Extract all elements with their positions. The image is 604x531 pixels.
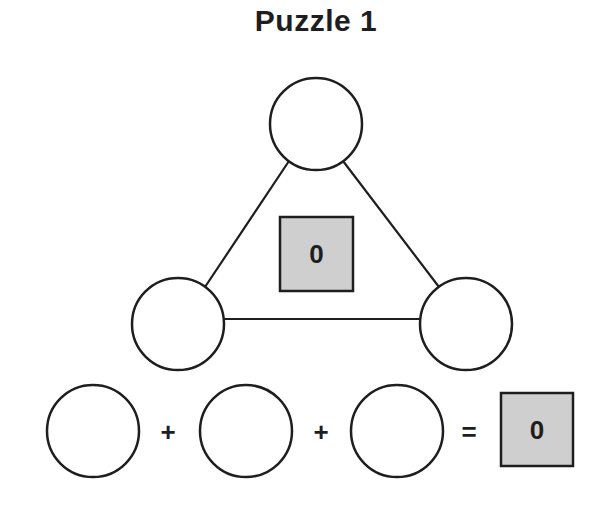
equation-term-1[interactable] — [47, 385, 139, 477]
equation-term-3[interactable] — [351, 385, 443, 477]
edge-top-right — [343, 161, 439, 287]
equals-operator: = — [461, 417, 476, 447]
edge-top-left — [205, 161, 289, 287]
equation-result-box: 0 — [501, 393, 573, 466]
triangle-center-box: 0 — [280, 217, 353, 291]
equation-term-2[interactable] — [200, 385, 292, 477]
triangle-node-top[interactable] — [270, 78, 362, 170]
triangle-node-right[interactable] — [420, 278, 512, 370]
result-value: 0 — [530, 415, 544, 445]
center-value: 0 — [309, 239, 323, 269]
plus-operator-1: + — [160, 417, 175, 447]
triangle-node-left[interactable] — [132, 278, 224, 370]
plus-operator-2: + — [313, 417, 328, 447]
puzzle-diagram: 0 + + = 0 — [0, 0, 604, 531]
